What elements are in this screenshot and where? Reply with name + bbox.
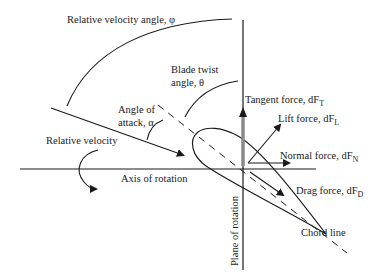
- blade-element-diagram: Relative velocity angle, φ Blade twist a…: [0, 0, 386, 276]
- relative-velocity-arrow: [51, 108, 183, 155]
- blade-twist-label-line1: Blade twist: [171, 64, 219, 75]
- relative-velocity-label: Relative velocity: [46, 135, 118, 146]
- drag-force-arrow: [250, 172, 283, 195]
- angle-of-attack-label-line1: Angle of: [118, 104, 156, 115]
- airfoil-shape: [192, 128, 326, 234]
- plane-of-rotation-label: Plane of rotation: [229, 195, 240, 266]
- tangent-force-arrowhead: [239, 107, 247, 117]
- relative-velocity-angle-arc: [67, 19, 232, 106]
- blade-twist-label-line2: angle, θ: [171, 77, 204, 88]
- angle-of-attack-label-line2: attack, α: [118, 117, 154, 128]
- normal-force-label: Normal force, dFN: [280, 150, 359, 164]
- lift-force-label: Lift force, dFL: [278, 113, 339, 127]
- relative-velocity-angle-label: Relative velocity angle, φ: [67, 14, 175, 25]
- axis-of-rotation-label: Axis of rotation: [121, 173, 188, 184]
- drag-force-label: Drag force, dFD: [296, 185, 364, 199]
- lift-force-arrow: [248, 125, 280, 163]
- tangent-force-label: Tangent force, dFT: [245, 94, 324, 108]
- chord-line-label: Chord line: [301, 227, 346, 238]
